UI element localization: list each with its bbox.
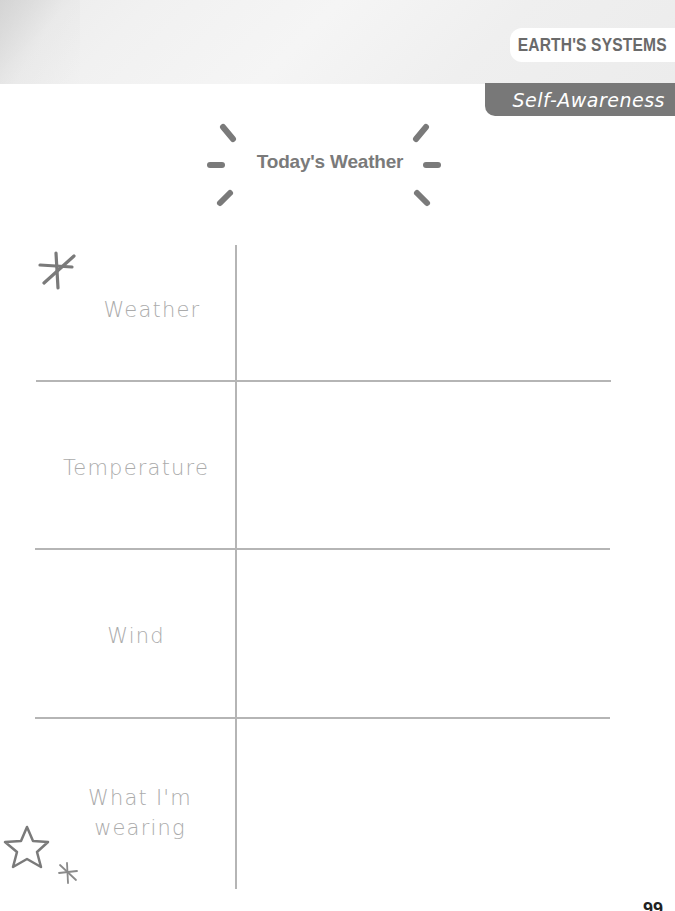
small-asterisk-icon [57,861,79,885]
row-label-temperature: Temperature [36,453,236,483]
row-label-weather: Weather [52,295,252,325]
subject-text: EARTH'S SYSTEMS [518,34,667,56]
page-number: 99 [643,900,663,911]
answer-cell-what-im-wearing[interactable] [238,719,611,889]
row-label-wind: Wind [36,621,236,651]
answer-cell-weather[interactable] [238,245,611,380]
star-outline-icon [2,824,52,870]
label-line-1: What I'm [40,783,240,813]
subject-label: EARTH'S SYSTEMS [510,28,675,62]
skill-text: Self-Awareness [513,89,665,111]
asterisk-icon [38,250,78,290]
skill-tab: Self-Awareness [485,83,675,116]
row-label-what-im-wearing: What I'm wearing [40,783,240,843]
worksheet-title: Today's Weather [190,110,470,220]
label-line-2: wearing [40,813,240,843]
title-text: Today's Weather [190,151,470,173]
answer-cell-temperature[interactable] [238,382,611,548]
answer-cell-wind[interactable] [238,550,611,717]
